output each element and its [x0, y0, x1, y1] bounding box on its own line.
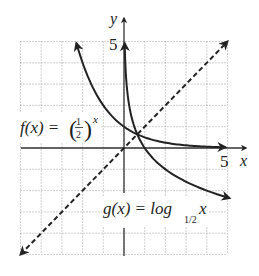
label-f: f(x) = ( 1 2 ) x	[18, 112, 100, 142]
y-axis-label: y	[108, 10, 118, 28]
x-tick-5: 5	[220, 152, 229, 171]
label-g-sub: 1/2	[184, 214, 197, 225]
label-g-main: g(x) = log	[103, 199, 172, 218]
label-f-main: f(x) =	[20, 118, 59, 137]
label-g-arg: x	[198, 199, 207, 218]
label-f-den: 2	[76, 129, 81, 140]
label-g-text: g(x) = log	[103, 199, 172, 218]
label-g: g(x) = log 1/2 x	[102, 196, 208, 226]
paren-right: )	[84, 116, 92, 142]
x-axis-label: x	[239, 152, 247, 169]
label-f-exp: x	[92, 113, 98, 125]
curve-g	[125, 43, 230, 198]
function-graph: y 5 5 x f(x) = ( 1 2 ) x g(x) = log 1/2 …	[0, 0, 259, 276]
y-tick-5: 5	[109, 35, 118, 54]
label-f-num: 1	[76, 116, 81, 127]
